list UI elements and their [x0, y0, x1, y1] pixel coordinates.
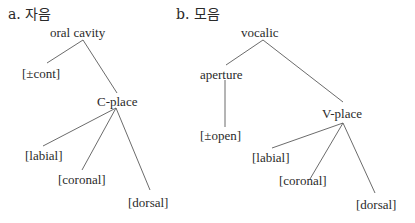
- node-c-place: C-place: [97, 95, 137, 109]
- edge-vocalic-to-aperture: [226, 40, 263, 65]
- edge-oral-cavity-to-c-place: [83, 40, 117, 93]
- edge-v-place-to-coronal: [310, 123, 343, 179]
- heading-consonants: a. 자음: [8, 6, 51, 22]
- edge-c-place-to-labial: [43, 108, 116, 146]
- node-v-coronal: [coronal]: [279, 174, 327, 188]
- node-cont: [±cont]: [22, 67, 60, 81]
- heading-vowels: b. 모음: [176, 6, 220, 22]
- node-open: [±open]: [200, 129, 241, 143]
- edge-v-place-to-labial: [272, 123, 343, 148]
- edge-oral-cavity-to-cont: [47, 40, 83, 63]
- node-c-labial: [labial]: [25, 149, 63, 163]
- edge-vocalic-to-v-place: [263, 40, 343, 102]
- node-v-labial: [labial]: [252, 151, 290, 165]
- node-c-coronal: [coronal]: [58, 173, 106, 187]
- node-c-dorsal: [dorsal]: [128, 196, 168, 210]
- node-vocalic: vocalic: [241, 26, 279, 40]
- node-v-place: V-place: [322, 107, 362, 121]
- node-v-dorsal: [dorsal]: [356, 198, 396, 212]
- node-oral-cavity: oral cavity: [50, 26, 105, 40]
- node-aperture: aperture: [200, 68, 243, 82]
- edge-c-place-to-dorsal: [116, 108, 150, 190]
- edge-v-place-to-dorsal: [343, 123, 375, 193]
